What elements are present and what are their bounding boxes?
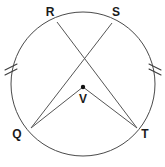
radius-v-q bbox=[31, 87, 83, 128]
vertex-label-s: S bbox=[112, 5, 120, 19]
radius-v-t bbox=[83, 87, 137, 128]
vertex-label-q: Q bbox=[12, 127, 21, 141]
geometry-canvas: R S Q T V bbox=[0, 0, 165, 167]
arc-tick-right-icon bbox=[149, 64, 161, 75]
vertex-label-t: T bbox=[141, 127, 149, 141]
geometry-diagram: R S Q T V bbox=[0, 0, 165, 167]
arc-tick-left-icon bbox=[5, 64, 17, 75]
center-point-dot bbox=[81, 85, 85, 89]
circle-outline bbox=[11, 12, 155, 156]
vertex-label-r: R bbox=[46, 5, 55, 19]
chord-s-q bbox=[31, 23, 112, 128]
vertex-label-v: V bbox=[79, 92, 87, 106]
chord-r-t bbox=[57, 22, 137, 128]
